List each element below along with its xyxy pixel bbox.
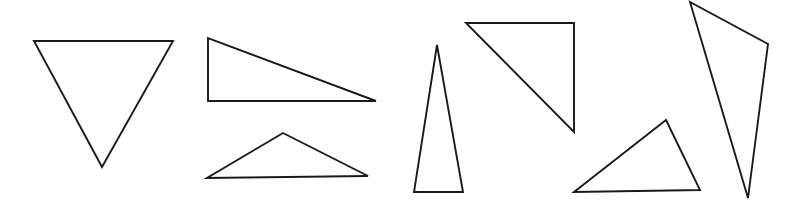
figure-canvas: [0, 0, 796, 206]
figure-background: [0, 0, 796, 206]
triangles-svg: [0, 0, 796, 206]
